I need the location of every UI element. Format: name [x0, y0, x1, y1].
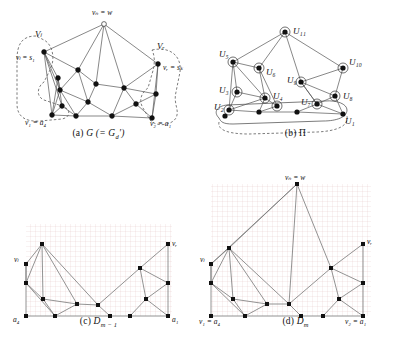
label-Vr-region: Vᵣ: [157, 42, 165, 51]
vertex-vr: [156, 62, 161, 67]
vertex: [122, 86, 127, 91]
vertex: [110, 114, 115, 119]
vertex-U3: [234, 89, 239, 94]
label-v1-a4: v₁ = a₄: [25, 119, 46, 127]
vertex: [41, 297, 45, 301]
caption-d-sub: m: [304, 321, 309, 328]
vertex: [56, 76, 61, 81]
vertex-U7: [314, 101, 319, 106]
caption-a-main: G (= G: [86, 128, 115, 138]
panel-a-vertices: [42, 22, 161, 121]
vertex: [294, 109, 299, 114]
label-U5: U₅: [219, 50, 229, 59]
label-vr-sk: vᵣ = sₖ: [163, 64, 183, 72]
label-U9: U₉: [287, 76, 297, 85]
label-c-vl: vₗ: [14, 256, 18, 264]
vertex: [256, 109, 261, 114]
caption-c-main: D: [94, 316, 101, 326]
vertex-vl: [42, 50, 47, 55]
vertex-U11: [282, 29, 287, 34]
vertex: [76, 68, 81, 73]
vertex: [274, 103, 279, 108]
vertex: [287, 302, 291, 306]
panel-a-graph-g: vₙ = w Vₗ Vᵣ vₗ = s₁ vᵣ = sₖ v₁ = a₄ v₂ …: [0, 0, 197, 176]
vertex-vl: [209, 262, 213, 266]
label-U11: U₁₁: [293, 27, 306, 36]
vertex: [222, 113, 227, 118]
panel-b-partition-pi: U₁₁ U₅ U₆ U₁₀ U₉ U₈ U₇ U₄ U₃ U₂ U₁ (b) Π: [197, 0, 394, 176]
vertex: [58, 88, 63, 93]
caption-panel-a: (a) G (= Gd′): [0, 128, 197, 140]
vertex: [144, 297, 148, 301]
vertex: [24, 281, 28, 285]
panel-b-vertex-circles: [224, 27, 348, 115]
vertex-vr: [361, 242, 365, 246]
caption-b-main: Π: [299, 128, 306, 138]
vertex-top-w: [295, 182, 299, 186]
vertex-U4: [262, 95, 267, 100]
caption-a-prefix: (a): [72, 128, 83, 138]
label-U2: U₂: [214, 103, 224, 112]
vertex-vr: [166, 242, 170, 246]
vertex: [329, 266, 333, 270]
vertex: [166, 281, 170, 285]
label-d-top: vₙ = w: [285, 174, 305, 182]
panel-a-dashed-regions: [17, 36, 180, 125]
vertex: [209, 281, 213, 285]
label-U10: U₁₀: [349, 58, 362, 67]
label-d-vr: vᵣ: [367, 238, 372, 246]
label-top-vertex-a: vₙ = w: [92, 9, 112, 17]
vertex: [94, 82, 99, 87]
label-U3: U₃: [219, 86, 229, 95]
label-v2-a1: v₂ = a₁: [150, 120, 171, 128]
vertex-U6: [256, 65, 261, 70]
label-U4: U₄: [273, 92, 283, 101]
caption-d-main: D: [297, 316, 304, 326]
panel-c-drawing-dm-1: vₗ vᵣ a₄ a₁ (c) Dm − 1: [0, 176, 197, 352]
vertex: [265, 302, 269, 306]
caption-c-prefix: (c): [80, 316, 91, 326]
vertex: [74, 114, 79, 119]
vertex: [361, 281, 365, 285]
vertex-U2: [226, 107, 231, 112]
label-U6: U₆: [266, 68, 276, 77]
label-U8: U₈: [343, 92, 353, 101]
label-U1: U₁: [345, 117, 355, 126]
vertex-v1: [50, 113, 55, 118]
vertex-vl: [24, 262, 28, 266]
vertex: [227, 246, 231, 250]
vertex-U5: [230, 59, 235, 64]
caption-panel-d: (d) Dm: [197, 316, 394, 328]
caption-a-suffix: ′): [119, 128, 125, 138]
vertex: [337, 297, 341, 301]
label-vl-s1: vₗ = s₁: [16, 54, 35, 62]
vertex-top-w: [102, 22, 107, 27]
caption-d-prefix: (d): [282, 316, 294, 326]
vertex: [96, 303, 100, 307]
label-U7: U₇: [301, 98, 311, 107]
label-d-vl: vₗ: [200, 256, 204, 264]
caption-panel-b: (b) Π: [197, 128, 394, 138]
label-c-vr: vᵣ: [172, 240, 177, 248]
caption-c-sub: m − 1: [101, 321, 117, 328]
panel-a-drawing: [0, 0, 197, 176]
panel-b-vertices: [222, 29, 345, 118]
label-Vl-region: Vₗ: [35, 30, 42, 39]
panel-b-edges: [229, 32, 343, 114]
panel-d-grid: [211, 184, 371, 316]
caption-b-prefix: (b): [285, 128, 297, 138]
panel-d-drawing-dm: vₙ = w vₗ vᵣ v₁ = a₄ v₂ = a₁ (d) Dm: [197, 176, 394, 352]
vertex: [138, 266, 142, 270]
caption-panel-c: (c) Dm − 1: [0, 316, 197, 328]
vertex: [75, 302, 79, 306]
vertex: [154, 92, 159, 97]
vertex-U10: [340, 65, 345, 70]
vertex-U8: [332, 93, 337, 98]
vertex: [40, 242, 44, 246]
vertex: [60, 104, 65, 109]
vertex: [86, 100, 91, 105]
vertex: [231, 297, 235, 301]
vertex: [134, 102, 139, 107]
vertex-U9: [298, 79, 303, 84]
